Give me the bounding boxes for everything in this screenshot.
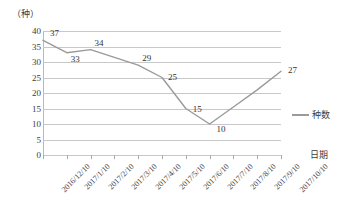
series-line-种数: [43, 31, 281, 155]
x-tick-5: [162, 155, 163, 159]
y-tick-label-10: 10: [19, 120, 41, 129]
x-tick-0: [43, 155, 44, 159]
y-tick-label-20: 20: [19, 89, 41, 98]
y-tick-label-5: 5: [19, 136, 41, 145]
x-tick-label-10: 2017/10/10: [298, 162, 330, 194]
y-tick-label-15: 15: [19, 105, 41, 114]
data-label-2: 34: [95, 39, 104, 48]
data-label-1: 33: [71, 55, 80, 64]
legend-swatch-种数: [292, 114, 309, 116]
x-tick-4: [138, 155, 139, 159]
x-tick-label-5: 2017/5/10: [178, 162, 207, 191]
x-tick-6: [186, 155, 187, 159]
x-tick-2: [91, 155, 92, 159]
data-label-4: 29: [142, 54, 151, 63]
y-tick-label-25: 25: [19, 74, 41, 83]
legend-label-种数: 种数: [312, 110, 330, 120]
data-label-6: 15: [193, 105, 202, 114]
x-tick-8: [233, 155, 234, 159]
x-tick-1: [67, 155, 68, 159]
data-label-7: 10: [217, 125, 226, 134]
plot-area: [43, 31, 281, 155]
y-tick-label-40: 40: [19, 27, 41, 36]
line-chart: （种） 4035302520151050 2016/12/102017/1/10…: [0, 0, 358, 216]
x-tick-10: [281, 155, 282, 159]
y-tick-label-0: 0: [19, 151, 41, 160]
y-tick-label-35: 35: [19, 43, 41, 52]
x-tick-9: [257, 155, 258, 159]
data-label-0: 37: [50, 29, 59, 38]
x-axis-title: 日期: [310, 150, 328, 160]
data-label-5: 25: [168, 73, 177, 82]
y-tick-label-30: 30: [19, 58, 41, 67]
data-label-10: 27: [288, 66, 297, 75]
y-axis-tick-labels: 4035302520151050: [17, 0, 41, 216]
legend: 种数: [292, 110, 330, 120]
x-tick-7: [210, 155, 211, 159]
x-tick-3: [114, 155, 115, 159]
